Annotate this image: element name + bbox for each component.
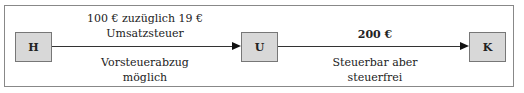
edge-u-k-label-above: 200 €: [290, 27, 460, 42]
arrowhead-icon: [232, 42, 241, 50]
node-u: U: [241, 32, 278, 62]
edge-h-u-label-below: Vorsteuerabzug möglich: [60, 55, 230, 85]
label-line: Umsatzsteuer: [60, 26, 230, 41]
node-h: H: [15, 32, 52, 62]
node-label: K: [483, 41, 493, 54]
label-line: möglich: [60, 70, 230, 85]
label-line: 100 € zuzüglich 19 €: [60, 11, 230, 26]
edge-u-k-label-below: Steuerbar aber steuerfrei: [290, 55, 460, 85]
edge-u-k-line: [278, 46, 461, 47]
label-line: Vorsteuerabzug: [60, 55, 230, 70]
label-line: Steuerbar aber: [290, 55, 460, 70]
edge-h-u-label-above: 100 € zuzüglich 19 € Umsatzsteuer: [60, 11, 230, 41]
arrowhead-icon: [460, 42, 469, 50]
label-line: 200 €: [290, 27, 460, 42]
edge-h-u-line: [52, 46, 233, 47]
node-label: U: [255, 41, 265, 54]
node-label: H: [28, 41, 38, 54]
label-line: steuerfrei: [290, 70, 460, 85]
node-k: K: [469, 32, 506, 62]
